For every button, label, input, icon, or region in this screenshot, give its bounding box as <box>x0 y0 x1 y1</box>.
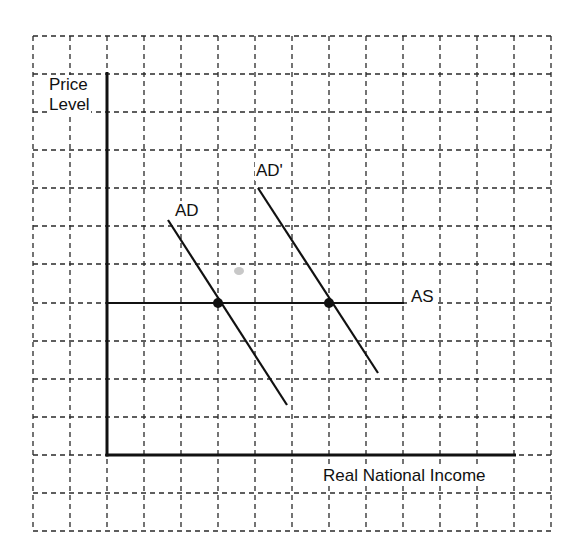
equilibrium-point-ad-as <box>213 298 223 308</box>
x-axis-label: Real National Income <box>322 466 487 486</box>
dashed-grid <box>33 36 551 531</box>
axes <box>106 72 517 457</box>
as-curve-label: AS <box>410 287 435 307</box>
grey-smudge-mark <box>234 267 244 275</box>
aggregate-demand-curve <box>168 220 287 405</box>
ad-prime-curve-label: AD' <box>255 161 284 181</box>
equilibrium-point-adprime-as <box>324 298 334 308</box>
shifted-aggregate-demand-curve <box>258 188 378 373</box>
y-axis-label-price: Price <box>48 75 89 95</box>
ad-curve-label: AD <box>174 201 200 221</box>
y-axis-label-level: Level <box>48 95 91 115</box>
